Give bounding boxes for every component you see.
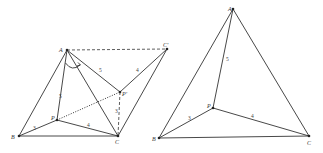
geometry-diagram: A B C P P' C' 5 3 4 5 4 3 A B C P 5 3 4 — [0, 0, 323, 153]
label-A: A — [58, 47, 63, 53]
point-C — [308, 135, 311, 138]
segment-BC — [159, 136, 309, 138]
length-PB: 3 — [188, 115, 191, 121]
length-P-prime-C: 3 — [115, 108, 118, 114]
point-A — [66, 49, 69, 52]
length-PB: 3 — [33, 125, 36, 131]
segment-P-P-prime — [57, 92, 120, 120]
segment-P-prime-C — [118, 92, 120, 136]
point-B — [18, 135, 21, 138]
segment-AP — [213, 9, 233, 108]
point-P — [56, 119, 59, 122]
label-B: B — [152, 136, 156, 142]
length-PC: 4 — [251, 113, 254, 119]
left-figure: A B C P P' C' 5 3 4 5 4 3 — [11, 42, 169, 145]
point-A — [232, 8, 235, 11]
segment-AC — [67, 50, 118, 136]
label-B: B — [11, 134, 15, 140]
segment-PB — [19, 120, 57, 136]
label-P-prime: P' — [121, 91, 128, 97]
label-C: C — [307, 140, 312, 146]
length-AP-prime: 5 — [99, 67, 102, 73]
segment-AB — [159, 9, 233, 138]
length-AP: 5 — [226, 56, 229, 62]
point-B — [158, 137, 161, 140]
label-P: P — [206, 103, 211, 109]
right-figure: A B C P 5 3 4 — [152, 6, 312, 146]
length-AP: 5 — [59, 93, 62, 99]
angle-arrow-icon — [77, 63, 81, 67]
length-PC: 4 — [87, 122, 90, 128]
point-C — [117, 135, 120, 138]
label-C-prime: C' — [163, 42, 169, 48]
label-A: A — [227, 6, 232, 12]
segment-AP — [57, 50, 67, 120]
point-P-prime — [119, 91, 122, 94]
segment-AP-prime — [67, 50, 120, 92]
label-C: C — [115, 139, 120, 145]
length-P-prime-C-prime: 4 — [136, 67, 139, 73]
label-P: P — [50, 115, 55, 121]
point-P — [212, 107, 215, 110]
segment-A-C-prime — [67, 49, 167, 50]
segment-P-prime-C-prime — [120, 49, 167, 92]
point-C-prime — [166, 48, 169, 51]
